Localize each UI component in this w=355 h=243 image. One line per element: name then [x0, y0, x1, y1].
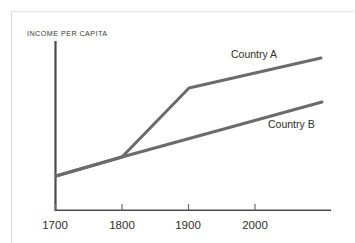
chart-screenshot: INCOME PER CAPITA 1700 1800 1900 2000 Co…: [0, 0, 355, 243]
x-tick-label-1800: 1800: [109, 219, 135, 231]
x-tick-label-1700: 1700: [42, 219, 68, 231]
x-tick-label-1900: 1900: [175, 219, 201, 231]
series-label-country-a: Country A: [231, 48, 277, 60]
series-label-country-b: Country B: [268, 118, 315, 130]
x-tick-label-2000: 2000: [242, 219, 268, 231]
series-line-country-a: [56, 58, 321, 176]
